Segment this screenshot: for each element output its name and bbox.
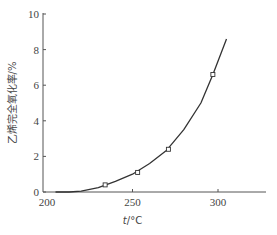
fitted-curve bbox=[56, 39, 227, 192]
data-point-marker bbox=[136, 170, 140, 174]
y-tick-label: 2 bbox=[34, 150, 40, 162]
data-point-marker bbox=[211, 73, 215, 77]
data-point-marker bbox=[166, 147, 170, 151]
data-markers bbox=[103, 73, 215, 187]
y-axis-label: 乙烯完全氧化率/% bbox=[6, 62, 18, 145]
data-curve bbox=[56, 39, 227, 192]
x-tick-label: 300 bbox=[210, 196, 227, 208]
y-tick-label: 4 bbox=[34, 115, 40, 127]
axis-labels: t/°C乙烯完全氧化率/% bbox=[6, 62, 142, 226]
y-tick-label: 8 bbox=[34, 44, 40, 56]
y-tick-label: 6 bbox=[34, 79, 40, 91]
x-tick-label: 200 bbox=[39, 196, 56, 208]
y-tick-label: 10 bbox=[28, 8, 40, 20]
data-point-marker bbox=[103, 183, 107, 187]
x-tick-label: 250 bbox=[124, 196, 141, 208]
axes: 0246810200250300 bbox=[28, 8, 266, 208]
x-axis-label: t/°C bbox=[123, 215, 142, 226]
chart: 0246810200250300 t/°C乙烯完全氧化率/% bbox=[0, 0, 277, 235]
